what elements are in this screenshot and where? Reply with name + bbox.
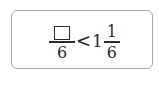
left-fraction-numerator bbox=[54, 22, 70, 41]
left-fraction: 6 bbox=[49, 22, 75, 61]
left-fraction-denominator: 6 bbox=[57, 43, 67, 62]
less-than-operator: < bbox=[76, 32, 91, 50]
inequality-expression: 6 < 1 1 6 bbox=[49, 22, 120, 62]
mixed-number-whole: 1 bbox=[92, 33, 103, 50]
answer-blank-box[interactable] bbox=[54, 26, 70, 40]
right-fraction-numerator: 1 bbox=[107, 22, 117, 41]
right-fraction-denominator: 6 bbox=[107, 43, 117, 62]
right-fraction: 1 6 bbox=[104, 22, 120, 61]
